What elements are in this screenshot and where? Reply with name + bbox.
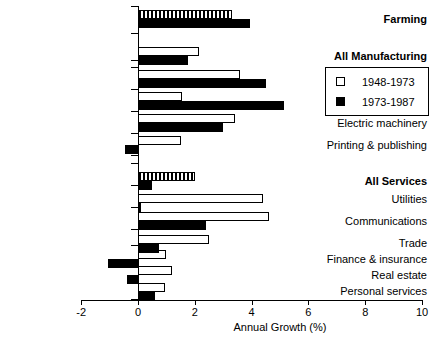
category-tick [131,89,138,90]
legend-swatch-white-icon [336,77,345,86]
category-label: All Manufacturing [305,50,433,62]
legend-swatch-black-icon [336,97,345,106]
x-axis-title: Annual Growth (%) [138,321,422,333]
bar [127,275,138,284]
category-tick [131,67,138,68]
bar [138,10,232,19]
bar [138,212,269,221]
bar [138,244,159,253]
x-tick-label: 8 [345,306,385,319]
bar [138,19,250,28]
x-tick-label: 4 [232,306,272,319]
x-tick-label: 10 [402,306,433,319]
zero-axis-line [138,6,139,300]
bar-chart: FarmingAll ManufacturingTextiles“Compute… [0,0,433,343]
category-tick [131,111,138,112]
bar [138,181,152,190]
category-label: Real estate [305,269,433,281]
bar [138,266,172,275]
category-label: All Services [305,175,433,187]
category-tick [131,155,138,156]
bar [138,283,165,292]
plot-area: FarmingAll ManufacturingTextiles“Compute… [0,0,433,343]
x-tick [308,300,309,305]
category-label: Farming [305,13,433,25]
x-tick-label: -2 [61,306,101,319]
bar [125,145,138,154]
x-tick-label: 0 [118,306,158,319]
category-label: Personal services [305,285,433,297]
x-tick [365,300,366,305]
category-tick [131,163,138,164]
bar [138,114,235,123]
legend-label: 1948-1973 [362,75,415,89]
bar [138,101,284,110]
bar [138,136,181,145]
category-tick [131,207,138,208]
category-tick [131,185,138,186]
category-label: Communications [305,215,433,227]
legend: 1948-1973 1973-1987 [325,67,429,116]
bar [138,235,209,244]
bar [138,70,240,79]
legend-label: 1973-1987 [362,95,415,109]
category-tick [131,133,138,134]
bar [138,123,223,132]
category-tick [131,229,138,230]
category-label: Printing & publishing [305,139,433,151]
category-label: Trade [305,237,433,249]
category-label: Electric machinery [305,117,433,129]
category-tick [131,60,138,61]
bar [138,92,182,101]
bar [138,194,263,203]
x-tick [81,300,82,305]
x-tick [138,300,139,305]
x-tick [195,300,196,305]
x-tick [252,300,253,305]
category-label: Utilities [305,193,433,205]
bar [138,79,266,88]
bar [138,172,195,181]
bar [138,56,188,65]
category-tick [131,33,138,34]
bar [108,259,138,268]
x-tick [422,300,423,305]
x-tick-label: 6 [288,306,328,319]
x-tick-label: 2 [175,306,215,319]
category-tick [131,245,138,246]
category-label: Finance & insurance [305,253,433,265]
bar [138,47,199,56]
category-tick [131,6,138,7]
bar [138,221,206,230]
